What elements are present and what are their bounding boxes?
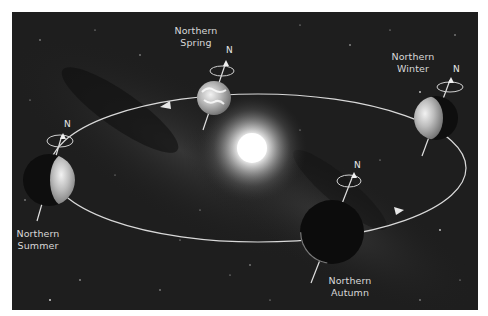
label-winter: Northern Winter xyxy=(373,51,453,75)
north-label-autumn: N xyxy=(354,160,361,170)
label-summer: Northern Summer xyxy=(12,228,78,252)
space-scene: Northern Spring Northern Winter Northern… xyxy=(12,12,478,310)
label-spring-line1: Northern xyxy=(156,25,236,37)
label-autumn-line1: Northern xyxy=(310,275,390,287)
label-autumn: Northern Autumn xyxy=(310,275,390,299)
label-spring: Northern Spring xyxy=(156,25,236,49)
label-autumn-line2: Autumn xyxy=(310,287,390,299)
label-summer-line2: Summer xyxy=(12,240,78,252)
north-label-spring: N xyxy=(226,45,233,55)
label-winter-line1: Northern xyxy=(373,51,453,63)
north-label-winter: N xyxy=(453,64,460,74)
label-spring-line2: Spring xyxy=(156,37,236,49)
north-label-summer: N xyxy=(64,119,71,129)
label-summer-line1: Northern xyxy=(12,228,78,240)
label-winter-line2: Winter xyxy=(373,63,453,75)
